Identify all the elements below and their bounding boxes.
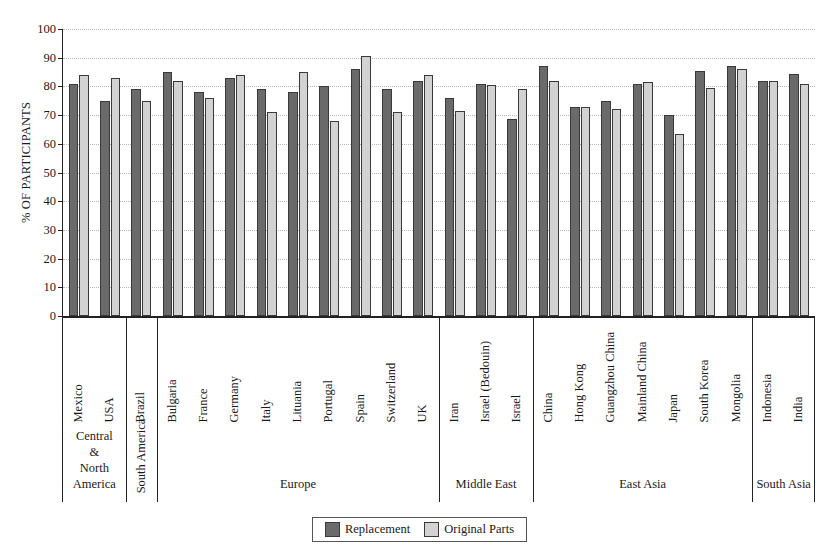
category-labels-band: MexicoUSABrazilBulgariaFranceGermanyItal… [62, 317, 815, 502]
category-label: Spain [353, 394, 366, 422]
region-divider [439, 318, 440, 502]
category-label: UK [416, 404, 429, 422]
category-label: Mexico [71, 384, 84, 422]
bar [675, 134, 685, 316]
legend-swatch-replacement [325, 522, 340, 537]
y-axis-tick-label: 40 [44, 194, 57, 209]
region-label: Middle East [442, 476, 530, 492]
bar [581, 107, 591, 317]
bar [455, 111, 465, 316]
bar [319, 86, 329, 316]
bar [79, 75, 89, 316]
bar [800, 84, 810, 316]
bar-chart: % OF PARTICIPANTS 0102030405060708090100… [0, 0, 830, 557]
region-label: Central&NorthAmerica [65, 428, 123, 492]
category-label: Japan [667, 394, 680, 422]
bar [643, 82, 653, 316]
bar [476, 84, 486, 316]
y-axis-tick-label: 100 [37, 22, 56, 37]
bar [612, 109, 622, 316]
region-label: Europe [160, 476, 436, 492]
region-label: South America [133, 406, 149, 506]
region-label: East Asia [536, 476, 749, 492]
y-axis-tick-label: 50 [44, 165, 57, 180]
bar [225, 78, 235, 316]
bar [727, 66, 737, 316]
y-axis-tick-label: 10 [44, 280, 57, 295]
bar [111, 78, 121, 316]
category-label: Italy [259, 399, 272, 422]
bar [487, 85, 497, 316]
legend-swatch-original-parts [424, 522, 439, 537]
category-label: Germany [228, 375, 241, 422]
legend-item-replacement: Replacement [325, 522, 410, 537]
plot-area: 0102030405060708090100 [62, 29, 815, 317]
category-label: Portugal [322, 380, 335, 422]
bar [758, 81, 768, 316]
region-divider [126, 318, 127, 502]
region-divider [157, 318, 158, 502]
category-label: Iran [447, 402, 460, 422]
bar [695, 71, 705, 316]
bar [131, 89, 141, 316]
bar [549, 81, 559, 316]
bar [142, 101, 152, 316]
y-axis-tick-label: 80 [44, 79, 57, 94]
bars-layer [63, 29, 815, 316]
category-label: Bulgaria [165, 379, 178, 422]
bar [518, 89, 528, 316]
category-label: South Korea [698, 359, 711, 422]
category-label: India [792, 396, 805, 422]
legend-label-original-parts: Original Parts [444, 522, 514, 537]
y-axis-title: % OF PARTICIPANTS [19, 53, 34, 273]
category-label: Guangzhou China [604, 331, 617, 422]
bar [507, 119, 517, 316]
category-label: USA [103, 397, 116, 422]
bar [769, 81, 779, 316]
category-label: Israel [510, 394, 523, 422]
bar [194, 92, 204, 316]
bar [789, 74, 799, 317]
y-axis-tick-label: 90 [44, 50, 57, 65]
bar [163, 72, 173, 316]
bar [236, 75, 246, 316]
bar [205, 98, 215, 316]
region-label: South Asia [755, 476, 813, 492]
region-label-line: Middle East [442, 476, 530, 492]
category-label: Israel (Bedouin) [479, 340, 492, 422]
region-label-line: & [65, 444, 123, 460]
bar [69, 84, 79, 316]
bar [288, 92, 298, 316]
bar [351, 69, 361, 316]
category-label: Lituania [291, 380, 304, 422]
legend-item-original-parts: Original Parts [424, 522, 514, 537]
y-axis-tick-label: 30 [44, 222, 57, 237]
region-divider [752, 318, 753, 502]
category-label: Mongolia [729, 373, 742, 422]
bar [413, 81, 423, 316]
bar [445, 98, 455, 316]
category-label: France [197, 388, 210, 422]
category-label: Mainland China [635, 341, 648, 422]
region-label-line: East Asia [536, 476, 749, 492]
bar [539, 66, 549, 316]
bar [737, 69, 747, 316]
y-axis-tick-label: 70 [44, 108, 57, 123]
category-label: Indonesia [761, 373, 774, 422]
region-label-line: America [65, 476, 123, 492]
y-axis-tick-label: 0 [50, 309, 56, 324]
bar [100, 101, 110, 316]
category-label: China [541, 392, 554, 422]
bar [361, 56, 371, 316]
bar [257, 89, 267, 316]
bar [299, 72, 309, 316]
bar [601, 101, 611, 316]
bar [633, 84, 643, 316]
bar [267, 112, 277, 316]
bar [706, 88, 716, 316]
category-label: Hong Kong [573, 363, 586, 422]
category-label: Switzerland [385, 362, 398, 422]
bar [570, 107, 580, 317]
bar [173, 81, 183, 316]
bar [664, 115, 674, 316]
